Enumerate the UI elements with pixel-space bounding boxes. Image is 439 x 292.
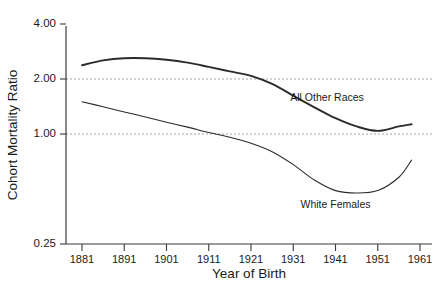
x-tick-label: 1921 — [239, 253, 263, 265]
y-tick-label: 1.00 — [34, 127, 56, 139]
x-tick-label: 1891 — [112, 253, 136, 265]
x-tick-label: 1911 — [197, 253, 221, 265]
x-tick-label: 1901 — [154, 253, 178, 265]
x-tick-label: 1931 — [281, 253, 305, 265]
y-axis-title: Cohort Mortality Ratio — [5, 70, 20, 201]
y-tick-label: 0.25 — [34, 237, 56, 249]
x-axis-ticks-group: 188118911901191119211931194119511961 — [70, 244, 432, 265]
series-label-all-other-races: All Other Races — [290, 91, 364, 103]
chart-container: 4.002.001.000.25 18811891190119111921193… — [0, 0, 439, 292]
x-axis-title: Year of Birth — [212, 266, 286, 281]
x-tick-label: 1881 — [70, 253, 94, 265]
x-tick-label: 1941 — [323, 253, 347, 265]
series-label-white-females: White Females — [300, 198, 370, 210]
x-tick-label: 1951 — [366, 253, 390, 265]
y-tick-label: 4.00 — [34, 17, 56, 29]
x-tick-label: 1961 — [408, 253, 432, 265]
cohort-mortality-ratio-chart: 4.002.001.000.25 18811891190119111921193… — [0, 0, 439, 292]
y-tick-label: 2.00 — [34, 72, 56, 84]
